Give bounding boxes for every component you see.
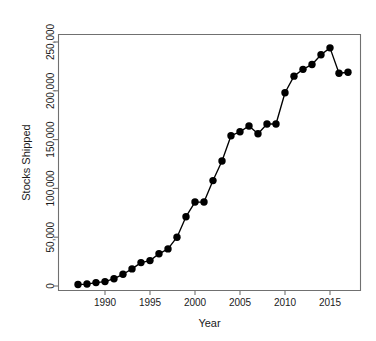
- data-point-marker: [128, 265, 135, 272]
- x-tick-label: 2005: [229, 297, 252, 308]
- data-point-marker: [344, 69, 351, 76]
- x-axis-tick-marks: [105, 291, 330, 296]
- data-point-marker: [83, 280, 90, 287]
- data-point-marker: [164, 245, 171, 252]
- line-chart-canvas: 050,000100,000150,000200,000250,000 1990…: [0, 0, 376, 341]
- data-series-markers: [74, 44, 351, 288]
- data-point-marker: [182, 213, 189, 220]
- data-point-marker: [155, 250, 162, 257]
- data-point-marker: [119, 271, 126, 278]
- data-point-marker: [272, 120, 279, 127]
- x-tick-label: 2000: [184, 297, 207, 308]
- plot-box-frame: [59, 35, 361, 291]
- data-point-marker: [101, 278, 108, 285]
- chart-figure: 050,000100,000150,000200,000250,000 1990…: [0, 0, 376, 341]
- x-tick-label: 1995: [139, 297, 162, 308]
- data-point-marker: [110, 275, 117, 282]
- data-point-marker: [209, 177, 216, 184]
- x-tick-label: 2015: [319, 297, 342, 308]
- y-axis-title: Stocks Shipped: [20, 124, 32, 200]
- y-axis-tick-labels: 050,000100,000150,000200,000250,000: [45, 23, 56, 288]
- data-point-marker: [146, 257, 153, 264]
- data-point-marker: [191, 198, 198, 205]
- data-point-marker: [200, 198, 207, 205]
- data-point-marker: [236, 128, 243, 135]
- data-point-marker: [254, 130, 261, 137]
- x-axis-title: Year: [198, 317, 221, 329]
- data-point-marker: [335, 70, 342, 77]
- data-point-marker: [218, 157, 225, 164]
- data-point-marker: [173, 234, 180, 241]
- data-point-marker: [74, 281, 81, 288]
- data-point-marker: [308, 61, 315, 68]
- x-axis-tick-labels: 199019952000200520102015: [94, 297, 342, 308]
- data-point-marker: [263, 120, 270, 127]
- data-point-marker: [92, 279, 99, 286]
- data-point-marker: [317, 51, 324, 58]
- x-tick-label: 2010: [274, 297, 297, 308]
- data-point-marker: [227, 132, 234, 139]
- data-point-marker: [326, 44, 333, 51]
- data-point-marker: [281, 89, 288, 96]
- data-point-marker: [299, 66, 306, 73]
- data-point-marker: [245, 122, 252, 129]
- data-point-marker: [290, 72, 297, 79]
- data-point-marker: [137, 259, 144, 266]
- data-series-line: [78, 48, 348, 285]
- x-tick-label: 1990: [94, 297, 117, 308]
